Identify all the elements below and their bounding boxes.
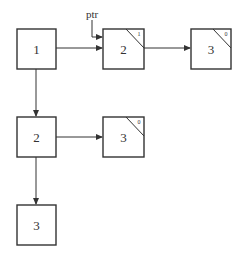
node-1: 1 bbox=[17, 29, 56, 69]
node-2-top: 1 2 bbox=[103, 29, 144, 69]
node-count: 0 bbox=[225, 31, 228, 37]
node-count: 0 bbox=[138, 119, 141, 125]
node-label: 2 bbox=[120, 42, 127, 57]
node-label: 3 bbox=[33, 218, 40, 233]
node-3-bottom: 3 bbox=[17, 205, 56, 245]
node-label: 1 bbox=[33, 42, 40, 57]
ptr-label: ptr bbox=[86, 8, 99, 20]
node-count: 1 bbox=[138, 31, 141, 37]
diagram-canvas: ptr 1 1 2 0 3 2 0 3 3 bbox=[0, 0, 243, 260]
ptr-arrow bbox=[92, 20, 102, 37]
node-3-middle: 0 3 bbox=[103, 117, 144, 157]
node-label: 3 bbox=[120, 130, 127, 145]
node-2-middle: 2 bbox=[17, 117, 56, 157]
node-label: 3 bbox=[208, 42, 215, 57]
node-3-top: 0 3 bbox=[191, 29, 231, 69]
node-label: 2 bbox=[33, 130, 40, 145]
